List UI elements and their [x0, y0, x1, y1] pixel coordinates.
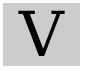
letter-tile: V — [3, 3, 80, 66]
letter-glyph: V — [3, 3, 80, 66]
